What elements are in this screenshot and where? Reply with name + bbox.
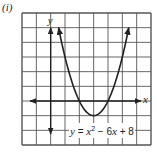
x-axis-label: x <box>143 94 148 105</box>
eq-tail: + 8 <box>117 126 134 137</box>
equation-label: y = x2 − 6x + 8 <box>69 123 135 138</box>
panel-label: (i) <box>2 1 12 13</box>
eq-equals: = <box>75 126 86 137</box>
axes <box>30 28 141 134</box>
y-axis-label: y <box>48 15 53 26</box>
eq-mid: − 6 <box>95 126 112 137</box>
